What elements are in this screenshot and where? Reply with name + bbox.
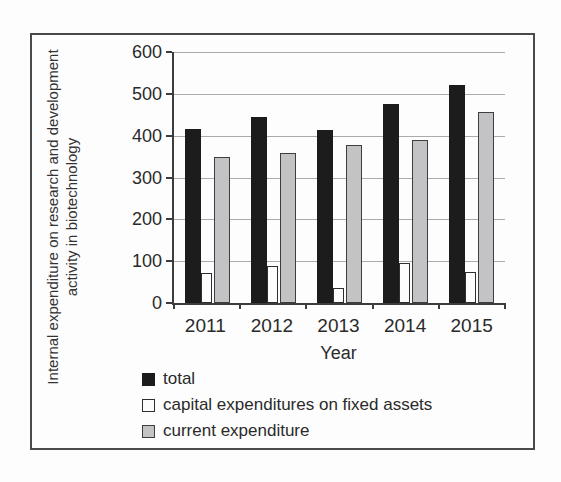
x-tick-mark-2	[305, 303, 307, 309]
bar-group-2014	[373, 52, 439, 303]
legend-label-capital: capital expenditures on fixed assets	[163, 395, 432, 415]
y-tick-mark-0	[166, 302, 172, 304]
bar-total-2015	[449, 85, 465, 303]
bar-group-2013	[306, 52, 372, 303]
y-tick-label-600: 600	[132, 42, 162, 63]
x-axis-title: Year	[172, 343, 505, 364]
bar-capital-2013	[333, 288, 344, 303]
legend-swatch-total	[142, 373, 155, 386]
x-category-2015: 2015	[438, 315, 505, 337]
y-tick-mark-600	[166, 51, 172, 53]
y-tick-mark-100	[166, 260, 172, 262]
bar-capital-2011	[201, 273, 212, 303]
bar-groups	[174, 52, 505, 303]
legend-label-current: current expenditure	[163, 421, 309, 441]
legend-item-capital: capital expenditures on fixed assets	[142, 392, 432, 418]
y-tick-mark-500	[166, 93, 172, 95]
bar-total-2014	[383, 104, 399, 303]
bar-current-2012	[280, 153, 296, 303]
legend-label-total: total	[163, 369, 195, 389]
x-category-2013: 2013	[305, 315, 372, 337]
y-tick-label-300: 300	[132, 167, 162, 188]
legend: totalcapital expenditures on fixed asset…	[142, 366, 432, 444]
x-tick-mark-4	[438, 303, 440, 309]
y-tick-mark-300	[166, 177, 172, 179]
bar-current-2011	[214, 157, 230, 303]
legend-swatch-current	[142, 425, 155, 438]
figure: Internal expenditure on research and dev…	[0, 0, 561, 482]
legend-item-current: current expenditure	[142, 418, 432, 444]
y-tick-label-200: 200	[132, 209, 162, 230]
x-category-2014: 2014	[372, 315, 439, 337]
bar-capital-2012	[267, 266, 278, 303]
chart-frame: Internal expenditure on research and dev…	[30, 33, 535, 450]
bar-group-2015	[439, 52, 505, 303]
bar-group-2012	[240, 52, 306, 303]
x-tick-mark-1	[239, 303, 241, 309]
y-tick-label-400: 400	[132, 125, 162, 146]
x-tick-mark-5	[504, 303, 506, 309]
y-tick-label-0: 0	[152, 293, 162, 314]
bar-current-2014	[412, 140, 428, 303]
y-tick-mark-200	[166, 218, 172, 220]
y-tick-mark-400	[166, 135, 172, 137]
x-category-2011: 2011	[172, 315, 239, 337]
bar-group-2011	[174, 52, 240, 303]
y-tick-label-100: 100	[132, 251, 162, 272]
legend-swatch-capital	[142, 399, 155, 412]
bar-capital-2014	[399, 263, 410, 303]
plot-area: 0100200300400500600	[172, 52, 505, 305]
bar-current-2013	[346, 145, 362, 303]
bar-total-2012	[251, 117, 267, 303]
bar-total-2013	[317, 130, 333, 303]
x-tick-mark-3	[372, 303, 374, 309]
y-axis-title: Internal expenditure on research and dev…	[43, 26, 81, 408]
x-axis-labels: 20112012201320142015	[172, 315, 505, 337]
bar-capital-2015	[465, 272, 476, 303]
y-tick-label-500: 500	[132, 83, 162, 104]
legend-item-total: total	[142, 366, 432, 392]
bar-current-2015	[478, 112, 494, 303]
x-tick-mark-0	[173, 303, 175, 309]
bar-total-2011	[185, 129, 201, 303]
x-category-2012: 2012	[239, 315, 306, 337]
